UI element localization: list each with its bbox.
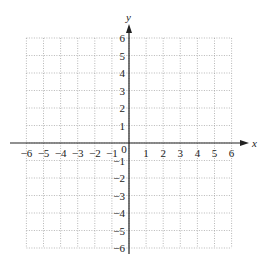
y-tick-label: −4 [113, 207, 125, 219]
x-tick-label: −3 [72, 147, 84, 159]
y-tick-label: −3 [113, 190, 125, 202]
x-axis-arrow-icon [240, 140, 249, 146]
y-tick-label: 6 [120, 32, 126, 44]
y-tick-label: −5 [113, 225, 125, 237]
x-tick-label: 3 [178, 147, 184, 159]
x-tick-label: 6 [229, 147, 235, 159]
axes: x y [10, 11, 257, 254]
x-tick-label: −2 [89, 147, 101, 159]
y-tick-label: −6 [113, 242, 125, 254]
x-tick-label: −4 [55, 147, 67, 159]
x-tick-label: 0 [121, 143, 127, 155]
y-axis-label: y [125, 11, 131, 23]
y-tick-label: −2 [113, 172, 125, 184]
x-tick-label: 1 [143, 147, 149, 159]
x-tick-label: −6 [21, 147, 33, 159]
y-axis-arrow-icon [126, 24, 132, 33]
x-tick-label: 4 [195, 147, 201, 159]
y-tick-label: 4 [120, 67, 126, 79]
x-tick-label: 2 [160, 147, 166, 159]
y-tick-label: 1 [120, 120, 126, 132]
x-tick-label: −5 [38, 147, 50, 159]
y-tick-label: 3 [120, 85, 126, 97]
x-axis-label: x [251, 137, 257, 149]
coordinate-plane: x y −6−5−4−3−2−10123456 654321−1−2−3−4−5… [0, 0, 263, 274]
x-tick-label: 5 [212, 147, 218, 159]
x-tick-labels: −6−5−4−3−2−10123456 [21, 143, 235, 159]
y-tick-label: 5 [120, 50, 126, 62]
y-tick-label: −1 [113, 155, 125, 167]
y-tick-label: 2 [120, 102, 126, 114]
